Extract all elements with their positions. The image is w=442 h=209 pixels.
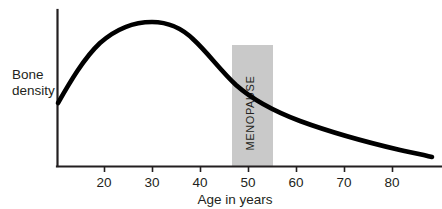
x-tick-label-80: 80 [384, 175, 399, 190]
x-tick-label-40: 40 [192, 175, 207, 190]
x-tick-label-50: 50 [240, 175, 255, 190]
x-tick-label-30: 30 [144, 175, 159, 190]
bone-density-chart-figure: MENOPAUSE 20 30 40 50 60 70 80 Age in ye… [0, 0, 442, 209]
y-axis-title-line1: Bone [12, 67, 44, 82]
menopause-band-label: MENOPAUSE [244, 76, 256, 151]
x-axis-title: Age in years [197, 192, 272, 207]
x-tick-label-70: 70 [336, 175, 351, 190]
x-tick-label-20: 20 [96, 175, 111, 190]
x-tick-label-60: 60 [288, 175, 303, 190]
y-axis-title-line2: density [12, 83, 55, 98]
chart-canvas: MENOPAUSE 20 30 40 50 60 70 80 Age in ye… [0, 0, 442, 209]
